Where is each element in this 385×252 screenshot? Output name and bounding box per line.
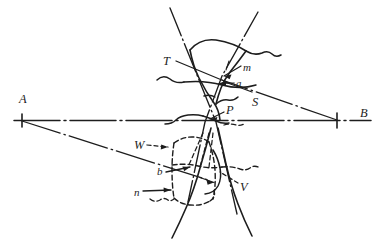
solid-curve-lower-inner — [205, 150, 221, 194]
label-b: b — [157, 166, 163, 177]
label-a: a — [236, 78, 242, 89]
label-B: B — [360, 107, 368, 120]
solid-curve-left-limb — [190, 50, 220, 120]
dashed-curve-cap-W — [174, 137, 209, 143]
label-A: A — [19, 93, 27, 106]
label-T: T — [163, 55, 170, 68]
arrowhead-A-sightline — [206, 180, 214, 185]
leader-T — [176, 61, 229, 83]
label-V: V — [240, 181, 248, 194]
dashed-jog-n — [150, 199, 174, 202]
label-m: m — [243, 62, 251, 73]
solid-curve-crown — [190, 40, 281, 57]
leader-W — [147, 145, 168, 150]
label-S: S — [252, 96, 258, 109]
dashed-stub-P — [224, 124, 244, 125]
sight-line-A-lower — [22, 121, 214, 183]
label-n: n — [134, 187, 140, 198]
diagram-canvas — [0, 0, 385, 252]
leader-n — [143, 188, 171, 193]
label-P: P — [226, 104, 234, 117]
label-W: W — [134, 139, 144, 152]
survey-diagram-figure: A B T m a S P W b V n — [0, 0, 385, 252]
